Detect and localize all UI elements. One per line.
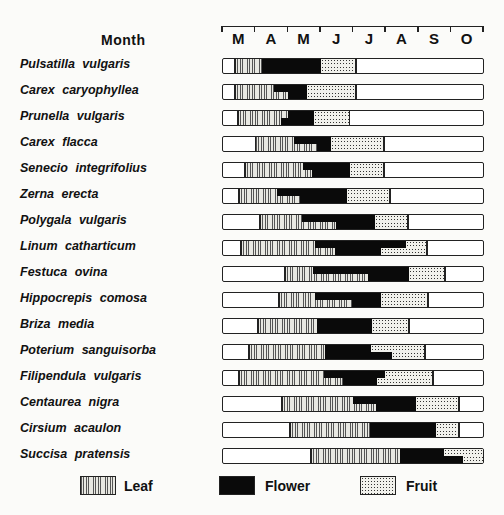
flower-segment [281,118,314,125]
month-label: O [457,30,477,47]
fruit-segment [331,144,384,151]
phenology-bar [222,422,484,438]
fruit-segment [321,59,356,66]
fruit-end-line [389,189,391,203]
phenology-bar [222,162,484,178]
phenology-bar [222,370,484,386]
flower-segment [335,248,381,255]
species-label: Centaurea nigra [20,395,119,409]
leaf-segment [245,163,303,170]
axis-tick [287,26,289,32]
phenology-bar [222,214,484,230]
fruit-segment [321,66,356,73]
flower-segment [317,144,331,151]
flower-segment [288,111,314,118]
leaf-segment [249,345,325,352]
fruit-end-line [458,423,460,437]
flower-segment [312,170,350,177]
fruit-end-line [458,397,460,411]
axis-tick [482,26,484,32]
flower-segment [343,378,377,385]
species-label: Zerna erecta [20,187,98,201]
fruit-segment [416,404,459,411]
phenology-bar [222,266,484,282]
leaf-segment [256,144,317,151]
fruit-segment [381,248,427,255]
fruit-segment [314,118,349,125]
phenology-bar [222,318,484,334]
legend-swatch-flower [219,476,255,495]
species-label: Pulsatilla vulgaris [20,57,130,71]
leaf-start-line [234,59,236,73]
fruit-segment [406,241,427,248]
fruit-segment [409,267,445,274]
flower-segment [325,345,371,352]
fruit-segment [347,189,390,196]
fruit-end-line [427,293,429,307]
fruit-end-line [426,241,428,255]
axis-tick [450,26,452,32]
phenology-bar [222,110,484,126]
fruit-end-line [349,111,351,125]
leaf-segment [290,423,370,430]
fruit-segment [350,170,383,177]
species-label: Senecio integrifolius [20,161,147,175]
flower-segment [400,456,463,463]
flower-segment [274,85,307,92]
axis-tick [319,26,321,32]
phenology-bar [222,136,484,152]
leaf-segment [285,267,313,274]
flower-segment [277,189,348,196]
fruit-segment [463,456,483,463]
month-label: J [359,30,379,47]
leaf-segment [279,293,315,300]
legend-label-leaf: Leaf [124,478,153,494]
fruit-end-line [444,267,446,281]
fruit-segment [371,345,425,352]
fruit-segment [372,319,409,326]
phenology-bar [222,292,484,308]
fruit-segment [331,137,384,144]
month-label: M [228,30,248,47]
leaf-segment [239,189,277,196]
leaf-start-line [240,241,242,255]
leaf-segment [260,222,336,229]
fruit-segment [444,449,483,456]
flower-segment [325,352,392,359]
fruit-segment [385,371,433,378]
fruit-segment [314,111,349,118]
flower-segment [324,371,385,378]
flower-segment [352,300,381,307]
flower-segment [262,59,321,66]
phenology-bar [222,396,484,412]
species-label: Carex caryophyllea [20,83,139,97]
flower-segment [302,215,375,222]
species-label: Filipendula vulgaris [20,369,141,383]
leaf-segment [279,300,352,307]
leaf-start-line [244,163,246,177]
leaf-segment [245,170,312,177]
fruit-segment [392,352,425,359]
fruit-segment [377,378,433,385]
leaf-segment [238,111,288,118]
flower-segment [313,267,409,274]
fruit-end-line [355,59,357,73]
species-label: Festuca ovina [20,265,107,279]
leaf-start-line [284,267,286,281]
species-label: Cirsium acaulon [20,421,121,435]
axis-title: Month [101,32,145,48]
flower-segment [315,241,406,248]
fruit-end-line [424,345,426,359]
leaf-segment [258,319,317,326]
flower-segment [370,430,436,437]
leaf-segment [282,404,376,411]
legend-swatch-fruit [360,476,396,495]
species-label: Poterium sanguisorba [20,343,156,357]
flower-segment [288,92,307,99]
leaf-segment [239,196,300,203]
flower-segment [294,137,331,144]
leaf-start-line [238,189,240,203]
leaf-start-line [310,449,312,463]
species-label: Linum catharticum [20,239,136,253]
fruit-end-line [432,371,434,385]
